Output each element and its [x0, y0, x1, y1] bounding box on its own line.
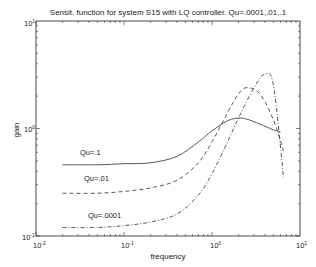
annotation-qu-0.01: Qu=.01 — [84, 174, 109, 183]
x-axis-label: frequency — [150, 252, 185, 261]
x-tick-labels: 10-2 10-1 100 101 — [33, 240, 307, 250]
axis-ticks — [36, 21, 300, 236]
chart-figure: Sensit. function for system S15 with LQ … — [0, 0, 316, 267]
y-axis-label: gain — [12, 122, 21, 137]
svg-text:10-1: 10-1 — [121, 240, 134, 250]
svg-text:100: 100 — [210, 240, 221, 250]
annotation-qu-0.0001: Qu=.0001 — [88, 211, 121, 220]
y-tick-labels: 101 100 10-1 — [22, 18, 35, 242]
chart-title: Sensit. function for system S15 with LQ … — [50, 8, 287, 17]
annotation-qu-0.1: Qu=.1 — [80, 148, 101, 157]
svg-text:10-2: 10-2 — [33, 240, 46, 250]
series-qu-0.1-line — [63, 118, 281, 165]
svg-text:100: 100 — [24, 124, 35, 134]
svg-text:101: 101 — [24, 18, 35, 28]
plot-area — [36, 21, 300, 236]
svg-text:101: 101 — [296, 240, 307, 250]
